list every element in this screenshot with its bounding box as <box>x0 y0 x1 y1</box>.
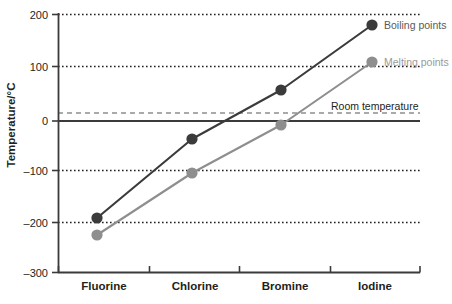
melting-point-marker-iodine <box>366 56 377 67</box>
boiling-point-marker-fluorine <box>91 212 102 223</box>
boiling-point-marker-chlorine <box>186 133 197 144</box>
y-tick-label-minus-300: –300 <box>24 267 48 279</box>
y-tick-label-200: 200 <box>30 9 48 21</box>
melting-point-marker-fluorine <box>91 229 102 240</box>
chart-background <box>0 0 452 304</box>
melting-point-marker-chlorine <box>186 167 197 178</box>
y-tick-label-minus-200: –200 <box>24 217 48 229</box>
x-category-label-iodine: Iodine <box>358 280 392 292</box>
melting-point-marker-bromine <box>275 119 286 130</box>
legend-label-boiling-points: Boiling points <box>384 19 446 31</box>
boiling-point-marker-iodine <box>366 19 377 30</box>
y-tick-label-0: 0 <box>42 115 48 127</box>
y-tick-label-100: 100 <box>30 61 48 73</box>
y-tick-label-minus-100: –100 <box>24 165 48 177</box>
room-temperature-label: Room temperature <box>331 100 419 112</box>
x-category-label-fluorine: Fluorine <box>81 280 126 292</box>
halogen-temperature-chart: 200 100 0 –100 –200 –300 Temperature/°C … <box>0 0 452 304</box>
boiling-point-marker-bromine <box>275 84 286 95</box>
chart-svg: 200 100 0 –100 –200 –300 Temperature/°C … <box>0 0 452 304</box>
legend-label-melting-points: Melting points <box>384 56 449 68</box>
y-axis-title: Temperature/°C <box>5 83 17 168</box>
x-category-label-chlorine: Chlorine <box>172 280 219 292</box>
x-category-label-bromine: Bromine <box>262 280 309 292</box>
